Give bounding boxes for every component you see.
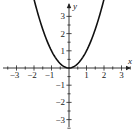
y-tick-label: 1 bbox=[61, 46, 66, 56]
x-axis-label: x bbox=[127, 56, 132, 66]
x-tick-label: 3 bbox=[119, 70, 124, 80]
y-tick-label: 2 bbox=[61, 29, 66, 39]
y-axis-label: y bbox=[72, 1, 77, 11]
x-tick-label: 2 bbox=[102, 70, 107, 80]
y-axis-arrow-icon bbox=[67, 3, 71, 8]
y-tick-label: −1 bbox=[55, 80, 65, 90]
x-tick-label: −2 bbox=[27, 70, 37, 80]
x-tick-label: −1 bbox=[45, 70, 55, 80]
chart: −3−2−1123−3−2−1123 x y bbox=[0, 0, 134, 130]
axes bbox=[3, 3, 131, 127]
y-tick-label: −2 bbox=[55, 97, 65, 107]
y-tick-label: −3 bbox=[55, 115, 65, 125]
y-tick-label: 3 bbox=[61, 11, 66, 21]
x-tick-label: −3 bbox=[10, 70, 20, 80]
x-tick-label: 1 bbox=[84, 70, 89, 80]
